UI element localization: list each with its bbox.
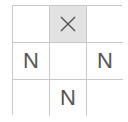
x-icon — [59, 15, 77, 33]
cell-r2-c0[interactable] — [13, 80, 50, 116]
cell-r1-c0[interactable]: N — [13, 43, 50, 80]
cell-r0-c2[interactable] — [87, 6, 123, 43]
game-board: N N N — [12, 5, 122, 115]
cell-r0-c0[interactable] — [13, 6, 50, 43]
cell-r0-c1[interactable] — [50, 6, 87, 43]
cell-r2-c2[interactable] — [87, 80, 123, 116]
cell-r1-c2[interactable]: N — [87, 43, 123, 80]
cell-r1-c1[interactable] — [50, 43, 87, 80]
cell-r2-c1[interactable]: N — [50, 80, 87, 116]
